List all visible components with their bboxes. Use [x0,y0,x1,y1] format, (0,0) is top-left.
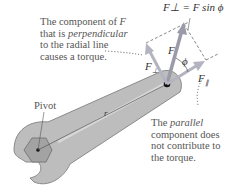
text: that is [40,28,68,39]
perpendicular-annotation: The component of F that is perpendicular… [40,16,128,62]
parallel-annotation: The parallel component does not contribu… [151,117,220,163]
text: The component of [40,16,120,27]
perp-force-label: F⊥ [145,60,158,75]
force-symbol: F [120,16,126,27]
text: the torque. [151,152,220,164]
radius-label: r [104,108,108,118]
emphasis: perpendicular [68,28,128,39]
text: The [151,117,170,128]
text: component does [151,129,220,141]
text: to the radial line [40,39,128,51]
force-label: F [168,44,175,56]
angle-label: ϕ [182,55,188,67]
emphasis: parallel [170,117,203,128]
parallel-force-label: F∥ [198,72,209,87]
perpendicular-equation: F⊥ = F sin ϕ [163,2,223,14]
text: not contribute to [151,140,220,152]
pivot-label: Pivot [34,100,56,112]
text: causes a torque. [40,51,128,63]
